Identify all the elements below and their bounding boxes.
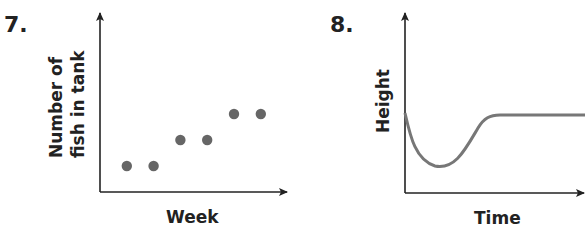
figure: 7. Number of fish in tank Week 8. Height… bbox=[0, 0, 585, 231]
x-axis-label: Time bbox=[474, 208, 521, 228]
y-axis-label: Height bbox=[373, 69, 393, 133]
data-point bbox=[175, 135, 185, 145]
data-point bbox=[229, 109, 239, 119]
problem-number-8: 8. bbox=[330, 12, 354, 37]
data-point bbox=[148, 161, 158, 171]
data-point bbox=[256, 109, 266, 119]
x-axis-label: Week bbox=[166, 207, 219, 227]
problem-number-7: 7. bbox=[4, 12, 28, 37]
data-points bbox=[122, 109, 266, 171]
height-curve bbox=[405, 113, 585, 167]
data-point bbox=[202, 135, 212, 145]
data-point bbox=[122, 161, 132, 171]
y-axis-label-line1: Number of bbox=[46, 56, 66, 158]
y-axis-label-line2: fish in tank bbox=[68, 50, 88, 158]
chart-7: 7. Number of fish in tank Week bbox=[4, 12, 287, 227]
chart-8: 8. Height Time bbox=[330, 12, 585, 228]
